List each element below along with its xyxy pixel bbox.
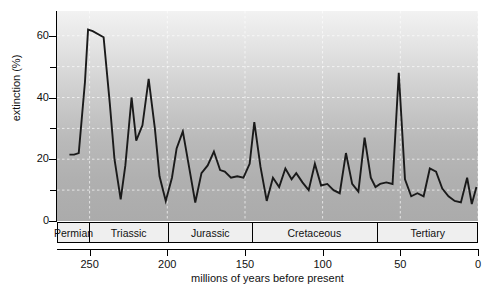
x-tick-label-50: 50 <box>380 258 420 270</box>
x-tick-100 <box>323 250 324 256</box>
x-axis-line <box>57 249 479 250</box>
gridlines <box>57 11 478 221</box>
period-cell-permian: Permian <box>58 223 89 242</box>
period-divider-1 <box>89 223 90 242</box>
period-divider-3 <box>252 223 253 242</box>
period-divider-4 <box>377 223 378 242</box>
y-tick-label-20: 20 <box>5 153 49 164</box>
x-tick-0 <box>478 250 479 256</box>
period-cell-tertiary: Tertiary <box>377 223 480 242</box>
period-divider-2 <box>168 223 169 242</box>
geological-period-strip: PermianTriassicJurassicCretaceousTertiar… <box>57 222 478 243</box>
y-tick-50 <box>50 67 56 68</box>
y-axis-line <box>56 11 57 222</box>
y-tick-0 <box>49 221 56 222</box>
x-axis-title: millions of years before present <box>57 272 478 284</box>
period-cell-triassic: Triassic <box>89 223 168 242</box>
y-tick-label-0: 0 <box>5 215 49 226</box>
extinction-chart-figure: 0204060 extinction (%) PermianTriassicJu… <box>0 0 492 289</box>
y-tick-30 <box>50 128 56 129</box>
period-cell-jurassic: Jurassic <box>168 223 252 242</box>
x-tick-150 <box>245 250 246 256</box>
y-axis-ticks: 0204060 <box>0 0 49 289</box>
y-tick-60 <box>49 36 56 37</box>
y-tick-40 <box>49 98 56 99</box>
x-tick-label-200: 200 <box>147 258 187 270</box>
x-tick-label-150: 150 <box>225 258 265 270</box>
x-tick-50 <box>400 250 401 256</box>
plot-canvas <box>57 11 478 221</box>
x-tick-label-0: 0 <box>458 258 492 270</box>
y-tick-20 <box>49 159 56 160</box>
x-tick-250 <box>90 250 91 256</box>
y-axis-title: extinction (%) <box>10 28 22 148</box>
x-tick-label-100: 100 <box>303 258 343 270</box>
y-tick-10 <box>50 190 56 191</box>
plot-area <box>57 11 478 221</box>
extinction-data-line <box>69 30 476 204</box>
x-tick-label-250: 250 <box>70 258 110 270</box>
period-cell-cretaceous: Cretaceous <box>252 223 376 242</box>
x-tick-200 <box>167 250 168 256</box>
